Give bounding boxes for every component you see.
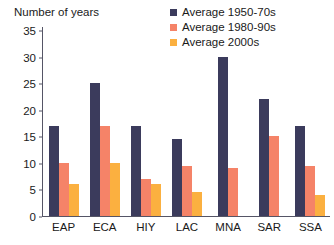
bar: [151, 184, 161, 216]
x-tick-label: ECA: [84, 221, 125, 234]
bar: [315, 195, 325, 216]
bar: [228, 168, 238, 216]
bar: [131, 126, 141, 216]
y-tick-mark: [39, 217, 42, 218]
bar: [100, 126, 110, 216]
legend-item: Average 1950-70s: [170, 5, 276, 19]
y-tick-mark: [39, 190, 42, 191]
bar-group: [289, 31, 330, 216]
y-tick-label: 20: [23, 105, 36, 117]
y-tick-mark: [39, 110, 42, 111]
y-axis-title: Number of years: [14, 6, 99, 19]
bar: [69, 184, 79, 216]
x-tick-label: EAP: [43, 221, 84, 234]
x-axis-labels: EAPECAHIYLACMNASARSSA: [43, 221, 331, 234]
y-tick-label: 5: [30, 184, 36, 196]
bar-group: [207, 31, 248, 216]
bar-groups: [43, 31, 330, 216]
bar: [295, 126, 305, 216]
legend-swatch-series-0: [170, 9, 177, 16]
y-tick-label: 25: [23, 78, 36, 90]
bar: [182, 166, 192, 216]
bar-group: [248, 31, 289, 216]
bar: [269, 136, 279, 216]
bar-group: [125, 31, 166, 216]
y-tick-mark: [39, 31, 42, 32]
bar: [259, 99, 269, 216]
y-tick-label: 35: [23, 25, 36, 37]
bar: [192, 192, 202, 216]
y-tick-label: 0: [30, 211, 36, 223]
y-tick-mark: [39, 84, 42, 85]
x-tick-label: MNA: [208, 221, 249, 234]
y-tick-mark: [39, 57, 42, 58]
y-tick-label: 15: [23, 131, 36, 143]
bar: [305, 166, 315, 216]
plot-area: 05101520253035: [42, 31, 330, 217]
x-tick-label: HIY: [125, 221, 166, 234]
x-axis-line: [42, 216, 330, 217]
y-tick-mark: [39, 163, 42, 164]
bar: [49, 126, 59, 216]
bar: [110, 163, 120, 216]
bar-group: [166, 31, 207, 216]
x-tick-label: LAC: [166, 221, 207, 234]
bar: [59, 163, 69, 216]
bar: [172, 139, 182, 216]
legend-swatch-series-1: [170, 24, 177, 31]
y-tick-label: 30: [23, 52, 36, 64]
x-tick-label: SSA: [290, 221, 331, 234]
y-tick-label: 10: [23, 158, 36, 170]
bar: [141, 179, 151, 216]
bar: [90, 83, 100, 216]
bar-group: [84, 31, 125, 216]
legend-label-series-0: Average 1950-70s: [182, 6, 276, 19]
bar-group: [43, 31, 84, 216]
x-tick-label: SAR: [249, 221, 290, 234]
y-tick-mark: [39, 137, 42, 138]
bar-chart: Number of years Average 1950-70s Average…: [0, 0, 334, 245]
bar: [218, 57, 228, 216]
